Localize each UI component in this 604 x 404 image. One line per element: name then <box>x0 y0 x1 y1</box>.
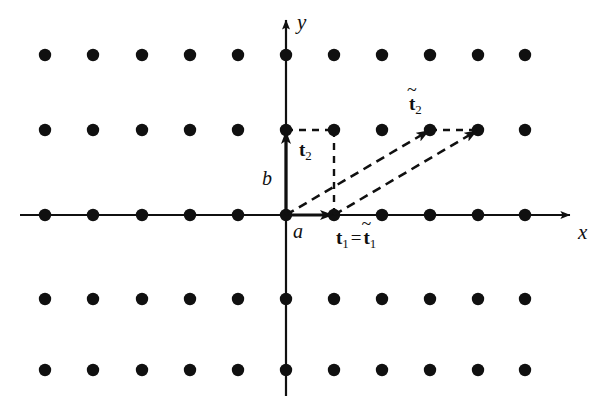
lattice-point <box>472 209 484 221</box>
lattice-point <box>519 293 531 305</box>
lattice-point <box>280 364 292 376</box>
lattice-point <box>328 293 340 305</box>
construction-guides <box>286 130 478 215</box>
lattice-point <box>424 364 436 376</box>
lattice-point <box>519 209 531 221</box>
lattice-constant-b-label: b <box>262 168 272 188</box>
vector-t1-tilde-symbol: ~t1 <box>364 227 377 248</box>
lattice-point <box>280 49 292 61</box>
lattice-point <box>39 209 51 221</box>
lattice-figure: y x a b t2 ~t2 t1=~t1 <box>0 0 604 404</box>
lattice-point <box>184 364 196 376</box>
lattice-point <box>376 124 388 136</box>
lattice-point <box>87 124 99 136</box>
tilde-accent-group: ~t <box>409 94 415 113</box>
vector-arrows <box>286 131 477 215</box>
vector-t1-symbol: t1 <box>336 227 349 248</box>
x-axis-label: x <box>578 222 587 243</box>
lattice-point <box>376 364 388 376</box>
vector-t2-symbol: t2 <box>299 139 312 160</box>
lattice-point <box>87 209 99 221</box>
lattice-point <box>39 364 51 376</box>
lattice-point <box>136 209 148 221</box>
lattice-point <box>136 124 148 136</box>
lattice-point <box>184 293 196 305</box>
lattice-point <box>424 209 436 221</box>
vector-t2-subscript: 2 <box>305 148 311 163</box>
lattice-point <box>519 49 531 61</box>
lattice-point <box>519 124 531 136</box>
lattice-point <box>184 209 196 221</box>
lattice-point <box>232 209 244 221</box>
lattice-point <box>472 293 484 305</box>
lattice-point <box>472 49 484 61</box>
lattice-point <box>376 49 388 61</box>
lattice-point <box>280 293 292 305</box>
lattice-point <box>232 49 244 61</box>
lattice-figure-canvas <box>0 0 604 404</box>
lattice-point <box>87 49 99 61</box>
lattice-point <box>136 364 148 376</box>
lattice-point <box>472 364 484 376</box>
lattice-point <box>232 124 244 136</box>
vector-t2-label: t2 <box>299 140 312 159</box>
lattice-point <box>424 293 436 305</box>
lattice-point <box>328 49 340 61</box>
vector-t2-tilde-subscript: 2 <box>415 102 421 117</box>
axis-lines <box>20 20 570 396</box>
lattice-point <box>39 124 51 136</box>
lattice-point <box>424 49 436 61</box>
tilde-accent-group-t1: ~t <box>364 228 370 247</box>
lattice-point <box>232 364 244 376</box>
lattice-point <box>136 49 148 61</box>
y-axis-label: y <box>297 12 306 33</box>
tilde-icon: ~ <box>407 81 417 99</box>
vector-t1-tilde-subscript: 1 <box>370 236 376 251</box>
lattice-point <box>184 49 196 61</box>
lattice-point <box>39 293 51 305</box>
vector-t2-tilde-label: ~t2 <box>409 94 422 113</box>
lattice-point <box>519 364 531 376</box>
lattice-point <box>39 49 51 61</box>
lattice-point <box>376 293 388 305</box>
tilde-icon-t1: ~ <box>362 215 372 233</box>
lattice-point <box>328 364 340 376</box>
lattice-constant-a-label: a <box>293 221 303 241</box>
vector-t1-subscript: 1 <box>342 236 348 251</box>
lattice-point <box>376 209 388 221</box>
lattice-point <box>87 364 99 376</box>
vector-t1-equality-label: t1=~t1 <box>336 228 376 247</box>
vector-t2-tilde-symbol: ~t2 <box>409 93 422 114</box>
lattice-point <box>87 293 99 305</box>
lattice-point <box>184 124 196 136</box>
lattice-point <box>232 293 244 305</box>
lattice-point <box>136 293 148 305</box>
